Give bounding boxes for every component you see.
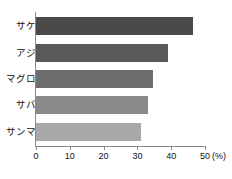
bar-fill <box>36 17 193 35</box>
x-tick-5 <box>205 146 206 150</box>
bar-3 <box>36 96 148 114</box>
x-tick-0 <box>36 146 37 150</box>
bar-fill <box>36 70 153 88</box>
bar-fill <box>36 96 148 114</box>
x-tick-4 <box>171 146 172 150</box>
category-label-2: マグロ <box>0 70 36 88</box>
x-tick-label-2: 20 <box>99 151 109 161</box>
bar-fill <box>36 44 168 62</box>
bar-1 <box>36 44 168 62</box>
x-tick-label-3: 30 <box>132 151 142 161</box>
x-tick-label-5: 50 <box>200 151 210 161</box>
category-label-3: サバ <box>0 96 36 114</box>
category-label-1: アジ <box>0 44 36 62</box>
bar-4 <box>36 123 141 141</box>
category-label-0: サケ <box>0 17 36 35</box>
bar-0 <box>36 17 193 35</box>
bar-2 <box>36 70 153 88</box>
bar-chart: 01020304050(%) サケアジマグロサバサンマ <box>0 0 232 179</box>
category-label-4: サンマ <box>0 123 36 141</box>
plot-area <box>36 13 205 145</box>
x-tick-1 <box>70 146 71 150</box>
x-axis-line <box>35 146 206 147</box>
x-tick-label-0: 0 <box>33 151 38 161</box>
x-tick-2 <box>104 146 105 150</box>
x-tick-label-1: 10 <box>65 151 75 161</box>
x-tick-3 <box>137 146 138 150</box>
x-axis-unit-label: (%) <box>212 151 226 161</box>
bar-fill <box>36 123 141 141</box>
x-tick-label-4: 40 <box>166 151 176 161</box>
